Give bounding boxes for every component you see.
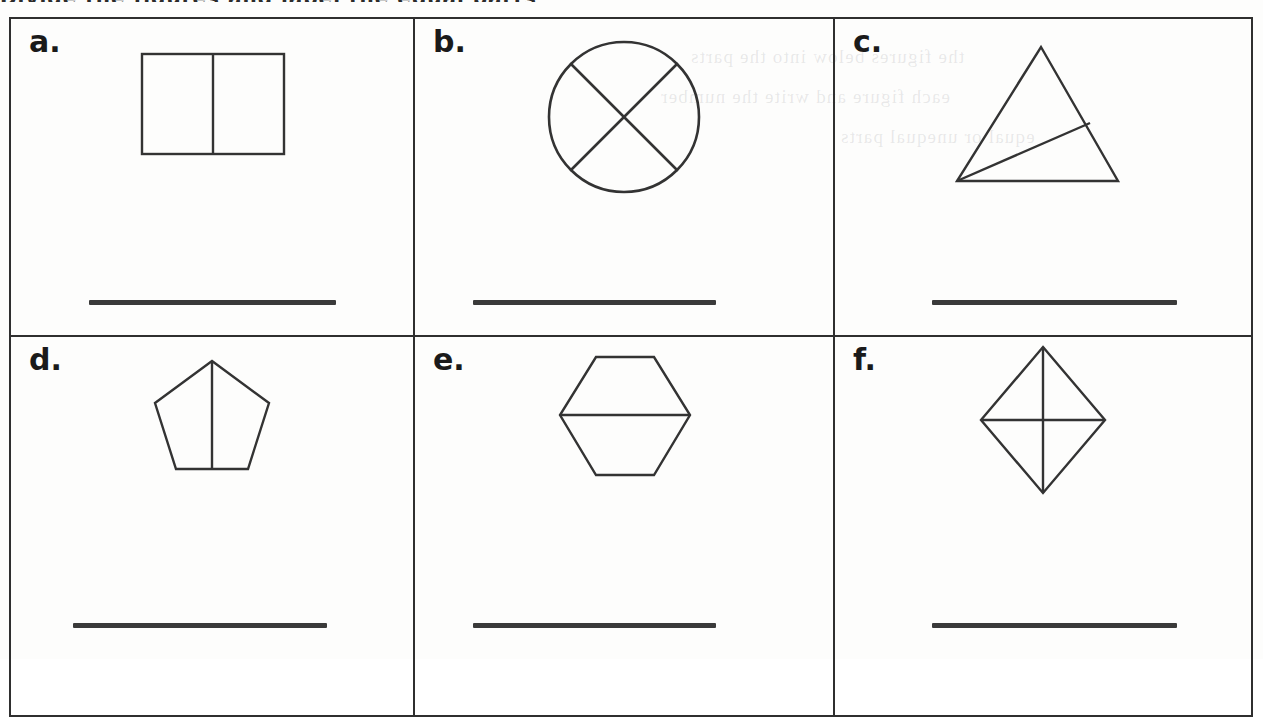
figure-e-hexagon [415,347,833,492]
cell-d: d. [11,337,415,715]
figure-d-pentagon [11,351,413,481]
answer-line-c[interactable] [932,300,1177,305]
cell-a: a. [11,19,415,337]
answer-line-d[interactable] [73,623,327,628]
answer-line-a[interactable] [89,300,336,305]
figure-f-rhombus [835,337,1251,505]
cell-f: f. [835,337,1251,715]
answer-line-f[interactable] [932,623,1177,628]
figure-b-circle [415,29,833,209]
cropped-heading: Divide the figures and label the equal p… [0,0,1263,2]
cell-e: e. [415,337,835,715]
figure-c-triangle [835,33,1251,203]
answer-line-e[interactable] [473,623,716,628]
answer-line-b[interactable] [473,300,716,305]
worksheet-grid: a. b. [9,17,1253,717]
figure-a-rectangle [11,29,413,159]
cell-c: c. [835,19,1251,337]
cell-b: b. [415,19,835,337]
